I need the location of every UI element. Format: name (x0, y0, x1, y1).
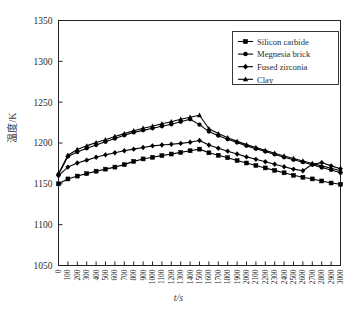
x-tick-label-1200: 1200 (167, 269, 176, 284)
y-tick-label-1050: 1050 (34, 261, 53, 271)
x-tick-label-1000: 1000 (148, 269, 157, 284)
y-axis-title: 温度/K (4, 93, 19, 163)
y-tick-label-1100: 1100 (34, 220, 53, 230)
x-tick-label-2600: 2600 (299, 269, 308, 284)
x-tick-label-2800: 2800 (317, 269, 326, 284)
x-tick-label-1100: 1100 (158, 269, 167, 284)
x-tick-label-100: 100 (64, 269, 73, 280)
x-tick-label-900: 900 (139, 269, 148, 280)
line-chart-canvas: 1050110011501200125013001350 01002003004… (0, 0, 357, 311)
x-tick-label-2700: 2700 (308, 269, 317, 284)
legend-label: Fused zirconia (257, 62, 308, 72)
x-axis-title: t/s (0, 292, 357, 303)
data-marker-square (104, 167, 108, 171)
data-marker-square (57, 182, 61, 186)
data-marker-square (113, 165, 117, 169)
x-tick-label-1600: 1600 (205, 269, 214, 284)
x-tick-label-1500: 1500 (195, 269, 204, 284)
data-marker-square (141, 157, 145, 161)
data-marker-square (235, 159, 239, 163)
x-tick-label-1900: 1900 (233, 269, 242, 284)
y-tick-label-1350: 1350 (34, 16, 53, 26)
data-marker-square (85, 172, 89, 176)
data-marker-square (282, 171, 286, 175)
data-marker-square (207, 151, 211, 155)
data-marker-square (132, 159, 136, 163)
y-tick-label-1250: 1250 (34, 98, 53, 108)
data-marker-square (94, 169, 98, 173)
x-tick-label-1400: 1400 (186, 269, 195, 284)
data-marker-square (320, 179, 324, 183)
x-tick-label-2500: 2500 (289, 269, 298, 284)
data-marker-square (310, 177, 314, 181)
legend-label: Megnesia brick (257, 49, 311, 59)
data-marker-square (273, 168, 277, 172)
data-marker-square (254, 163, 258, 167)
data-marker-square (169, 152, 173, 156)
data-marker-square (245, 161, 249, 165)
y-tick-label-1200: 1200 (34, 138, 53, 148)
x-tick-label-2400: 2400 (280, 269, 289, 284)
data-marker-square (226, 156, 230, 160)
x-tick-label-1300: 1300 (176, 269, 185, 284)
data-marker-square (122, 163, 126, 167)
legend: Silicon carbideMegnesia brickFused zirco… (233, 32, 339, 85)
x-tick-label-2100: 2100 (252, 269, 261, 284)
x-tick-label-2000: 2000 (242, 269, 251, 284)
x-tick-label-300: 300 (82, 269, 91, 280)
y-tick-label-1300: 1300 (34, 57, 53, 67)
legend-label: Clay (257, 75, 274, 85)
x-tick-label-0: 0 (54, 269, 63, 273)
data-marker-square (301, 175, 305, 179)
data-marker-square (75, 174, 79, 178)
data-marker-square (216, 153, 220, 157)
x-tick-label-200: 200 (73, 269, 82, 280)
x-tick-label-1700: 1700 (214, 269, 223, 284)
x-tick-label-1800: 1800 (223, 269, 232, 284)
x-tick-label-700: 700 (120, 269, 129, 280)
x-tick-label-2900: 2900 (327, 269, 336, 284)
x-tick-label-400: 400 (92, 269, 101, 280)
x-tick-label-2200: 2200 (261, 269, 270, 284)
legend-label: Silicon carbide (257, 37, 309, 47)
data-marker-square (339, 182, 343, 186)
x-tick-label-500: 500 (101, 269, 110, 280)
data-marker-square (292, 173, 296, 177)
data-marker-square (329, 181, 333, 185)
y-tick-label-1150: 1150 (34, 179, 53, 189)
data-marker-square (188, 149, 192, 153)
data-marker-square (243, 39, 247, 43)
x-tick-label-3000: 3000 (336, 269, 345, 284)
data-marker-square (66, 177, 70, 181)
x-tick-label-2300: 2300 (270, 269, 279, 284)
data-marker-square (151, 155, 155, 159)
data-marker-circle (243, 52, 248, 57)
chart-figure: 1050110011501200125013001350 01002003004… (0, 0, 357, 311)
data-marker-square (160, 154, 164, 158)
data-marker-square (198, 147, 202, 151)
x-tick-label-800: 800 (129, 269, 138, 280)
data-marker-square (263, 166, 267, 170)
data-marker-circle (197, 122, 201, 126)
x-tick-label-600: 600 (111, 269, 120, 280)
data-marker-square (179, 150, 183, 154)
